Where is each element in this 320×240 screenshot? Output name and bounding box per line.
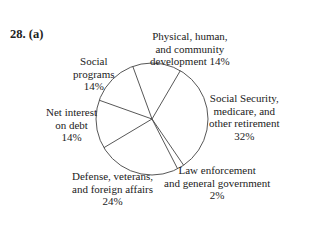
slice-divider — [99, 100, 152, 119]
slice-divider — [133, 66, 152, 119]
slice-divider — [152, 71, 180, 119]
label-defense: Defense, veterans,and foreign affairs24% — [72, 170, 153, 208]
label-social-programs: Socialprograms14% — [73, 55, 115, 93]
label-law-enforcement: Law enforcementand general government2% — [164, 164, 270, 202]
slice-divider — [152, 119, 184, 165]
label-net-interest: Net intereston debt14% — [46, 106, 97, 144]
slice-divider — [104, 119, 152, 148]
label-social-security: Social Security,medicare, andother retir… — [209, 92, 280, 142]
label-physical-development: Physical, human,and communitydevelopment… — [150, 30, 230, 68]
slice-divider — [152, 119, 178, 169]
